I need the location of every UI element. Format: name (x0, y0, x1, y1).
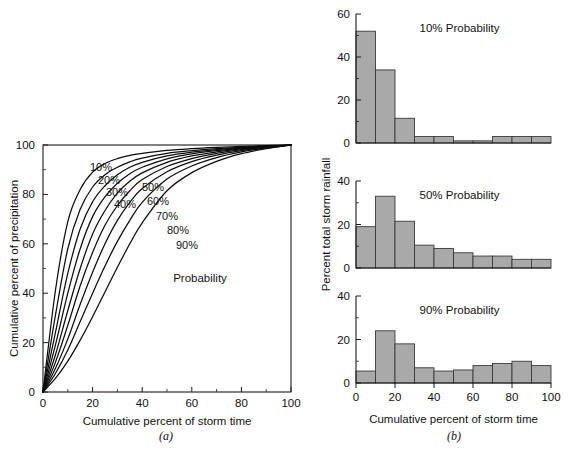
y-tick-label: 80 (22, 188, 35, 200)
y-tick-label: 40 (337, 290, 350, 302)
x-tick-label: 20 (389, 391, 402, 403)
histogram-bar (395, 118, 415, 143)
histogram-title: 10% Probability (420, 22, 500, 34)
histogram-bar (415, 137, 435, 143)
probability-curve-50 (43, 145, 291, 392)
histogram-bar (434, 248, 454, 268)
histogram-bar (415, 368, 435, 383)
histogram-bar (376, 196, 396, 268)
histogram-bar (395, 221, 415, 268)
curve-label-80: 80% (167, 224, 189, 236)
panel-a-cumulative-curves: 020406080100020406080100Cumulative perce… (0, 0, 320, 456)
histograms-chart: 020406010% Probability0204050% Probabili… (320, 0, 568, 456)
histogram-title: 90% Probability (420, 304, 500, 316)
panel-b-histograms: 020406010% Probability0204050% Probabili… (320, 0, 568, 456)
histogram-bar (376, 70, 396, 143)
y-tick-label: 0 (344, 262, 350, 274)
histogram-bar (493, 256, 513, 268)
histogram-title: 50% Probability (420, 189, 500, 201)
y-tick-label: 20 (22, 337, 35, 349)
histogram-bar (532, 366, 552, 383)
x-tick-label: 40 (428, 391, 441, 403)
histogram-bar (473, 366, 493, 383)
curve-label-40: 40% (114, 198, 136, 210)
curve-label-20: 20% (98, 174, 120, 186)
histogram-hist-90-probability: 0204002040608010090% ProbabilityCumulati… (337, 290, 560, 425)
histogram-hist-50-probability: 0204050% ProbabilityPercent total storm … (320, 158, 551, 292)
y-tick-label: 40 (22, 287, 35, 299)
y-tick-label: 100 (16, 139, 35, 151)
y-tick-label: 0 (344, 377, 350, 389)
histogram-bar (512, 137, 532, 143)
histogram-bar (356, 31, 376, 143)
curve-label-70: 70% (156, 210, 178, 222)
panel-b-caption: (b) (447, 429, 461, 443)
histogram-hist-10-probability: 020406010% Probability (337, 8, 551, 149)
histogram-bar (493, 363, 513, 383)
x-tick-label: 60 (467, 391, 480, 403)
panel-a-caption: (a) (159, 429, 173, 443)
histogram-bar (454, 370, 474, 383)
histogram-bar (395, 344, 415, 383)
histogram-bar (454, 253, 474, 268)
histogram-bar (415, 245, 435, 268)
y-tick-label: 20 (337, 219, 350, 231)
y-tick-label: 40 (337, 175, 350, 187)
histogram-bar (434, 137, 454, 143)
histogram-bar (376, 331, 396, 383)
x-tick-label: 100 (541, 391, 560, 403)
y-tick-label: 20 (337, 334, 350, 346)
curve-label-60: 60% (147, 195, 169, 207)
x-tick-label: 0 (40, 397, 46, 409)
histogram-bar (532, 259, 552, 268)
y-tick-label: 0 (344, 137, 350, 149)
x-axis-title: Cumulative percent of storm time (83, 415, 252, 427)
histogram-bar (532, 137, 552, 143)
histogram-bar (356, 371, 376, 383)
histogram-bar (434, 371, 454, 383)
y-axis-title: Percent total storm rainfall (320, 158, 332, 292)
x-tick-label: 80 (506, 391, 519, 403)
histogram-bar (473, 256, 493, 268)
curve-label-50: 50% (142, 181, 164, 193)
figure-container: 020406080100020406080100Cumulative perce… (0, 0, 568, 456)
y-tick-label: 60 (337, 8, 350, 20)
y-tick-label: 40 (337, 51, 350, 63)
curve-label-90: 90% (176, 239, 198, 251)
histogram-bar (356, 227, 376, 268)
x-tick-label: 60 (185, 397, 198, 409)
curve-label-10: 10% (90, 161, 112, 173)
y-tick-label: 20 (337, 94, 350, 106)
histogram-bar (512, 259, 532, 268)
x-tick-label: 100 (281, 397, 300, 409)
x-tick-label: 80 (235, 397, 248, 409)
y-tick-label: 0 (29, 386, 35, 398)
cumulative-curves-chart: 020406080100020406080100Cumulative perce… (0, 0, 320, 456)
x-tick-label: 40 (136, 397, 149, 409)
x-tick-label: 0 (353, 391, 359, 403)
probability-annotation: Probability (173, 272, 227, 284)
y-axis-title: Cumulative percent of precipitation (8, 180, 20, 357)
y-tick-label: 60 (22, 238, 35, 250)
x-axis-title: Cumulative percent of storm time (369, 413, 538, 425)
histogram-bar (512, 361, 532, 383)
curve-label-30: 30% (106, 186, 128, 198)
histogram-bar (493, 137, 513, 143)
x-tick-label: 20 (86, 397, 99, 409)
